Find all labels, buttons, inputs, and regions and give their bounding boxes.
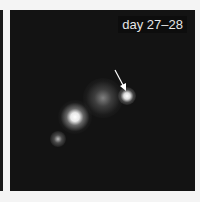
adjacent-panel-edge bbox=[0, 10, 3, 191]
panel-label: day 27–28 bbox=[118, 16, 187, 33]
arrow-icon bbox=[10, 10, 195, 191]
image-panel: day 27–28 bbox=[10, 10, 195, 191]
